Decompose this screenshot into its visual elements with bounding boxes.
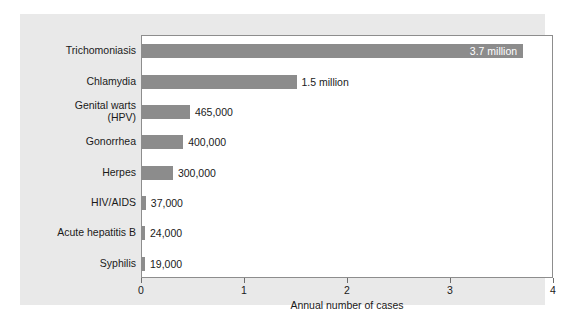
category-label: Herpes — [40, 166, 136, 178]
bar — [142, 166, 173, 180]
category-label: Chlamydia — [40, 75, 136, 87]
x-tick-label: 3 — [447, 284, 453, 296]
bars-layer: 3.7 million1.5 million465,000400,000300,… — [142, 36, 552, 277]
x-axis-ticks: 01234 — [141, 278, 553, 300]
category-label: Acute hepatitis B — [40, 226, 136, 238]
category-label: Syphilis — [40, 257, 136, 269]
bar-value-label: 24,000 — [150, 226, 182, 240]
category-label: HIV/AIDS — [40, 196, 136, 208]
bar-value-label: 1.5 million — [302, 75, 349, 89]
bar-value-label: 465,000 — [195, 105, 233, 119]
bar-value-label: 300,000 — [178, 166, 216, 180]
bar — [142, 105, 190, 119]
category-label: Gonorrhea — [40, 135, 136, 147]
x-tick-mark — [347, 278, 348, 283]
x-tick-mark — [141, 278, 142, 283]
figure-panel: TrichomoniasisChlamydiaGenital warts (HP… — [20, 14, 545, 305]
chart-screenshot: TrichomoniasisChlamydiaGenital warts (HP… — [0, 0, 564, 324]
x-tick-mark — [450, 278, 451, 283]
x-tick-mark — [244, 278, 245, 283]
bar — [142, 135, 183, 149]
bar-value-label: 400,000 — [188, 135, 226, 149]
category-axis-labels: TrichomoniasisChlamydiaGenital warts (HP… — [40, 35, 136, 278]
category-label: Trichomoniasis — [40, 44, 136, 56]
bar — [142, 196, 146, 210]
x-tick-label: 4 — [550, 284, 556, 296]
category-label: Genital warts (HPV) — [40, 99, 136, 123]
bar — [142, 44, 523, 58]
bar-value-label: 3.7 million — [470, 44, 517, 58]
bar — [142, 75, 297, 89]
bar — [142, 257, 145, 271]
x-tick-label: 1 — [241, 284, 247, 296]
plot-area: 3.7 million1.5 million465,000400,000300,… — [141, 35, 553, 278]
x-tick-label: 2 — [344, 284, 350, 296]
bar — [142, 226, 145, 240]
x-axis-title: Annual number of cases — [141, 299, 553, 311]
x-tick-label: 0 — [138, 284, 144, 296]
x-tick-mark — [553, 278, 554, 283]
bar-value-label: 37,000 — [151, 196, 183, 210]
bar-value-label: 19,000 — [150, 257, 182, 271]
